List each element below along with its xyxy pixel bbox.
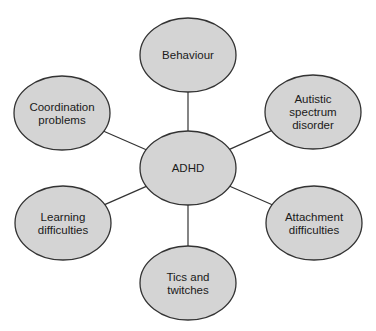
node-label: difficulties bbox=[289, 224, 340, 236]
adhd-mind-map: ADHDBehaviourCoordinationproblemsAutisti… bbox=[0, 0, 376, 331]
node-label: Attachment bbox=[285, 211, 344, 223]
diagram-nodes: ADHDBehaviourCoordinationproblemsAutisti… bbox=[14, 18, 362, 320]
node-label: ADHD bbox=[172, 162, 205, 174]
connector-adhd-coordination bbox=[104, 131, 146, 150]
node-center-adhd: ADHD bbox=[140, 131, 236, 205]
node-label: Tics and bbox=[166, 271, 209, 283]
node-label: difficulties bbox=[38, 224, 89, 236]
node-label: Learning bbox=[41, 211, 86, 223]
node-coordination: Coordinationproblems bbox=[14, 76, 110, 150]
connector-adhd-autistic bbox=[230, 131, 272, 150]
node-attachment: Attachmentdifficulties bbox=[266, 186, 362, 260]
node-autistic: Autisticspectrumdisorder bbox=[265, 75, 361, 149]
node-tics: Tics andtwitches bbox=[140, 246, 236, 320]
node-label: twitches bbox=[167, 284, 209, 296]
node-label: Autistic bbox=[294, 93, 331, 105]
node-label: disorder bbox=[292, 119, 334, 131]
connector-adhd-learning bbox=[105, 186, 147, 204]
node-label: Coordination bbox=[29, 101, 94, 113]
connector-adhd-attachment bbox=[230, 186, 272, 205]
node-behaviour: Behaviour bbox=[140, 18, 236, 92]
node-label: Behaviour bbox=[162, 49, 214, 61]
node-label: spectrum bbox=[289, 106, 336, 118]
node-label: problems bbox=[38, 114, 86, 126]
node-learning: Learningdifficulties bbox=[15, 186, 111, 260]
